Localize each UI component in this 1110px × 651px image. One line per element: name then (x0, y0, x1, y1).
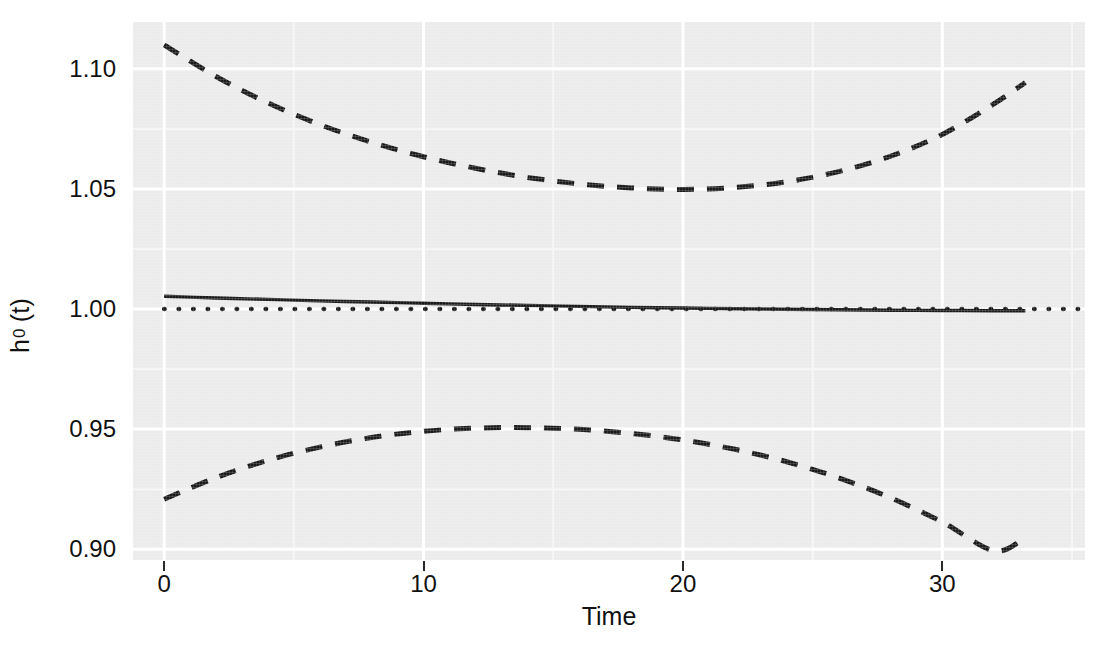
x-tick-label: 10 (410, 570, 437, 598)
y-tick-label: 1.05 (20, 175, 116, 203)
x-axis-title: Time (133, 602, 1085, 631)
x-tick-label: 0 (157, 570, 170, 598)
y-tick-label: 0.95 (20, 415, 116, 443)
x-tick-label: 30 (929, 570, 956, 598)
y-tick-label: 1.10 (20, 55, 116, 83)
plot-panel (133, 22, 1085, 560)
y-axis-ticks: 0.900.951.001.051.10 (16, 0, 116, 651)
x-tick-mark (682, 561, 684, 571)
x-tick-mark (941, 561, 943, 571)
y-tick-label: 1.00 (20, 295, 116, 323)
x-tick-label: 20 (670, 570, 697, 598)
x-tick-mark (163, 561, 165, 571)
x-tick-mark (423, 561, 425, 571)
y-tick-label: 0.90 (20, 535, 116, 563)
chart-figure: h0(t) 0.900.951.001.051.10 0102030 Time (0, 0, 1110, 651)
plot-svg (133, 22, 1085, 560)
